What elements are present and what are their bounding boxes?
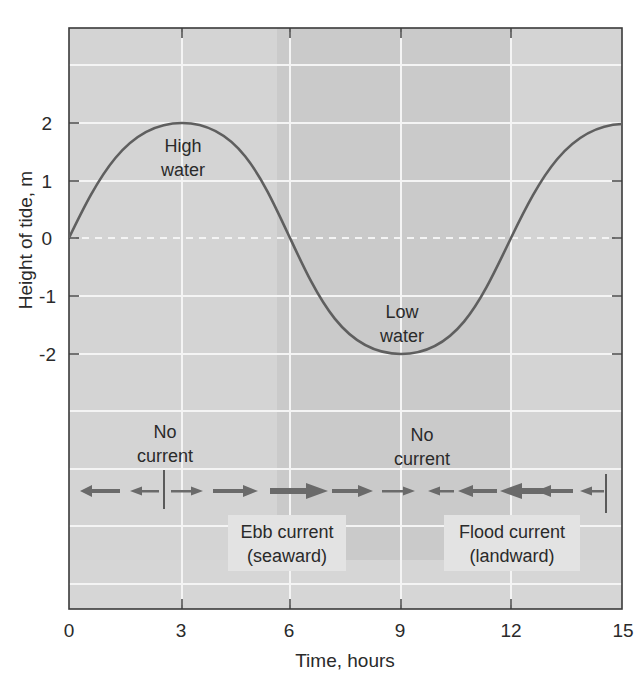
tide-chart: 2 1 0 -1 -2 Height of tide, m 0 3 6 9 12…: [0, 0, 642, 680]
x-tick-3: 3: [176, 620, 187, 641]
no-current-label-1-line2: current: [137, 446, 193, 466]
x-tick-0: 0: [64, 620, 75, 641]
high-water-label-line2: water: [160, 160, 205, 180]
ebb-current-label-line2: (seaward): [247, 546, 327, 566]
flood-current-label-line1: Flood current: [459, 522, 565, 542]
no-current-label-2-line1: No: [410, 425, 433, 445]
no-current-label-2-line2: current: [394, 449, 450, 469]
high-water-label-line1: High: [164, 136, 201, 156]
shaded-band: [277, 28, 511, 560]
x-tick-12: 12: [500, 620, 521, 641]
y-tick-neg1: -1: [39, 286, 56, 307]
x-tick-9: 9: [395, 620, 406, 641]
y-tick-1: 1: [41, 171, 52, 192]
no-current-label-1-line1: No: [153, 422, 176, 442]
y-tick-2: 2: [41, 113, 52, 134]
y-tick-neg2: -2: [39, 344, 56, 365]
low-water-label-line2: water: [379, 326, 424, 346]
x-tick-15: 15: [612, 620, 633, 641]
flood-current-label-line2: (landward): [469, 546, 554, 566]
x-tick-6: 6: [284, 620, 295, 641]
y-axis-label: Height of tide, m: [15, 171, 36, 309]
ebb-current-label-line1: Ebb current: [240, 522, 333, 542]
x-axis-label: Time, hours: [295, 650, 395, 671]
y-tick-0: 0: [41, 228, 52, 249]
low-water-label-line1: Low: [385, 302, 419, 322]
